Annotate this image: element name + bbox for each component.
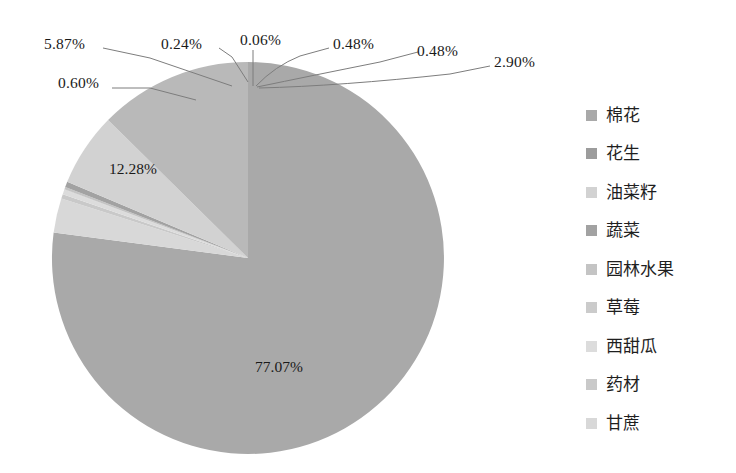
legend-item-yaocai[interactable]: 药材 [586,366,736,405]
legend-item-xitiangua[interactable]: 西甜瓜 [586,327,736,366]
legend-item-huasheng[interactable]: 花生 [586,135,736,174]
pct-label-006: 0.06% [240,31,281,49]
legend-item-ganzhe[interactable]: 甘蔗 [586,404,736,443]
legend-label: 草莓 [606,299,640,316]
legend-swatch-icon [586,418,597,429]
legend-label: 花生 [606,145,640,162]
legend: 棉花 花生 油菜籽 蔬菜 园林水果 草莓 西甜瓜 药材 [586,96,736,443]
pie-chart: 5.87% 0.60% 0.24% 0.06% 0.48% 0.48% 2.90… [0,0,736,473]
pie-svg [0,0,570,473]
legend-swatch-icon [586,302,597,313]
pct-label-1228: 12.28% [109,160,157,178]
legend-item-youcaizi[interactable]: 油菜籽 [586,173,736,212]
legend-label: 棉花 [606,107,640,124]
legend-swatch-icon [586,148,597,159]
legend-label: 药材 [606,376,640,393]
pct-label-048a: 0.48% [333,35,374,53]
legend-label: 西甜瓜 [606,338,657,355]
pct-label-024: 0.24% [161,35,202,53]
legend-label: 甘蔗 [606,415,640,432]
legend-swatch-icon [586,341,597,352]
legend-item-shucai[interactable]: 蔬菜 [586,212,736,251]
pct-label-7707: 77.07% [255,358,303,376]
pct-label-290: 2.90% [494,53,535,71]
legend-swatch-icon [586,187,597,198]
legend-label: 蔬菜 [606,222,640,239]
pct-label-048b: 0.48% [417,42,458,60]
pct-label-587: 5.87% [44,35,85,53]
legend-swatch-icon [586,225,597,236]
pct-label-060: 0.60% [58,74,99,92]
legend-label: 油菜籽 [606,184,657,201]
legend-item-yuanlinshuiguo[interactable]: 园林水果 [586,250,736,289]
legend-item-mianhua[interactable]: 棉花 [586,96,736,135]
pie-plot-area: 5.87% 0.60% 0.24% 0.06% 0.48% 0.48% 2.90… [0,0,570,473]
legend-swatch-icon [586,110,597,121]
legend-swatch-icon [586,379,597,390]
legend-swatch-icon [586,264,597,275]
legend-item-caomei[interactable]: 草莓 [586,289,736,328]
legend-label: 园林水果 [606,261,674,278]
